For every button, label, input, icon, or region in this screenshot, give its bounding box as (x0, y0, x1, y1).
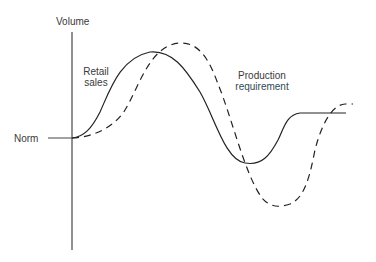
retail-sales-annotation-line2: sales (78, 77, 114, 88)
y-axis-label: Volume (56, 16, 89, 27)
chart-canvas (0, 0, 376, 262)
retail-sales-annotation-line1: Retail (78, 66, 114, 77)
production-requirement-annotation-line1: Production (232, 70, 292, 81)
retail-sales-annotation: Retail sales (78, 66, 114, 88)
production-requirement-annotation: Production requirement (232, 70, 292, 92)
production-requirement-annotation-line2: requirement (232, 81, 292, 92)
norm-label: Norm (14, 133, 38, 144)
production-requirement-curve (72, 43, 353, 206)
